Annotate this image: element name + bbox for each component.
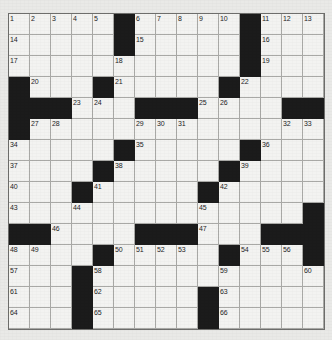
grid-cell[interactable]: 47 bbox=[198, 224, 219, 245]
grid-cell[interactable] bbox=[261, 266, 282, 287]
grid-cell[interactable] bbox=[51, 77, 72, 98]
grid-cell[interactable] bbox=[282, 308, 303, 329]
grid-cell[interactable] bbox=[198, 245, 219, 266]
grid-cell[interactable] bbox=[72, 35, 93, 56]
grid-cell[interactable] bbox=[51, 245, 72, 266]
grid-cell[interactable] bbox=[156, 182, 177, 203]
grid-cell[interactable] bbox=[177, 35, 198, 56]
grid-cell[interactable] bbox=[177, 56, 198, 77]
grid-cell[interactable]: 26 bbox=[219, 98, 240, 119]
grid-cell[interactable] bbox=[30, 287, 51, 308]
grid-cell[interactable]: 20 bbox=[30, 77, 51, 98]
grid-cell[interactable] bbox=[219, 203, 240, 224]
grid-cell[interactable] bbox=[156, 56, 177, 77]
grid-cell[interactable] bbox=[282, 56, 303, 77]
grid-cell[interactable] bbox=[240, 182, 261, 203]
grid-cell[interactable]: 10 bbox=[219, 14, 240, 35]
grid-cell[interactable] bbox=[135, 56, 156, 77]
grid-cell[interactable]: 19 bbox=[261, 56, 282, 77]
grid-cell[interactable] bbox=[30, 140, 51, 161]
grid-cell[interactable]: 32 bbox=[282, 119, 303, 140]
grid-cell[interactable]: 14 bbox=[9, 35, 30, 56]
grid-cell[interactable] bbox=[198, 77, 219, 98]
grid-cell[interactable]: 64 bbox=[9, 308, 30, 329]
grid-cell[interactable] bbox=[177, 203, 198, 224]
grid-cell[interactable] bbox=[51, 140, 72, 161]
grid-cell[interactable] bbox=[177, 266, 198, 287]
grid-cell[interactable] bbox=[261, 77, 282, 98]
grid-cell[interactable] bbox=[177, 161, 198, 182]
grid-cell[interactable] bbox=[114, 224, 135, 245]
grid-cell[interactable]: 23 bbox=[72, 98, 93, 119]
grid-cell[interactable] bbox=[240, 287, 261, 308]
grid-cell[interactable]: 13 bbox=[303, 14, 324, 35]
grid-cell[interactable]: 60 bbox=[303, 266, 324, 287]
grid-cell[interactable]: 49 bbox=[30, 245, 51, 266]
grid-cell[interactable] bbox=[303, 56, 324, 77]
grid-cell[interactable]: 52 bbox=[156, 245, 177, 266]
grid-cell[interactable] bbox=[240, 203, 261, 224]
grid-cell[interactable] bbox=[282, 35, 303, 56]
grid-cell[interactable] bbox=[51, 56, 72, 77]
grid-cell[interactable]: 56 bbox=[282, 245, 303, 266]
grid-cell[interactable] bbox=[198, 56, 219, 77]
grid-cell[interactable] bbox=[30, 182, 51, 203]
grid-cell[interactable]: 35 bbox=[135, 140, 156, 161]
grid-cell[interactable] bbox=[303, 35, 324, 56]
grid-cell[interactable] bbox=[51, 266, 72, 287]
grid-cell[interactable]: 24 bbox=[93, 98, 114, 119]
grid-cell[interactable] bbox=[72, 161, 93, 182]
grid-cell[interactable] bbox=[156, 287, 177, 308]
grid-cell[interactable]: 46 bbox=[51, 224, 72, 245]
grid-cell[interactable]: 16 bbox=[261, 35, 282, 56]
grid-cell[interactable] bbox=[72, 224, 93, 245]
grid-cell[interactable]: 2 bbox=[30, 14, 51, 35]
grid-cell[interactable] bbox=[198, 35, 219, 56]
grid-cell[interactable]: 42 bbox=[219, 182, 240, 203]
grid-cell[interactable] bbox=[156, 35, 177, 56]
grid-cell[interactable] bbox=[198, 119, 219, 140]
grid-cell[interactable] bbox=[135, 203, 156, 224]
grid-cell[interactable] bbox=[72, 140, 93, 161]
grid-cell[interactable] bbox=[156, 140, 177, 161]
grid-cell[interactable]: 33 bbox=[303, 119, 324, 140]
grid-cell[interactable]: 8 bbox=[177, 14, 198, 35]
grid-cell[interactable]: 40 bbox=[9, 182, 30, 203]
grid-cell[interactable] bbox=[114, 182, 135, 203]
grid-cell[interactable]: 27 bbox=[30, 119, 51, 140]
grid-cell[interactable]: 4 bbox=[72, 14, 93, 35]
grid-cell[interactable] bbox=[261, 203, 282, 224]
grid-cell[interactable]: 6 bbox=[135, 14, 156, 35]
grid-cell[interactable] bbox=[177, 140, 198, 161]
grid-cell[interactable] bbox=[30, 308, 51, 329]
grid-cell[interactable]: 18 bbox=[114, 56, 135, 77]
grid-cell[interactable] bbox=[114, 308, 135, 329]
grid-cell[interactable] bbox=[282, 287, 303, 308]
grid-cell[interactable] bbox=[135, 161, 156, 182]
grid-cell[interactable] bbox=[156, 77, 177, 98]
grid-cell[interactable] bbox=[30, 203, 51, 224]
grid-cell[interactable] bbox=[240, 119, 261, 140]
grid-cell[interactable] bbox=[72, 119, 93, 140]
grid-cell[interactable]: 22 bbox=[240, 77, 261, 98]
grid-cell[interactable]: 36 bbox=[261, 140, 282, 161]
grid-cell[interactable]: 12 bbox=[282, 14, 303, 35]
grid-cell[interactable] bbox=[72, 56, 93, 77]
crossword-grid[interactable]: 1234567891011121314151617181920212223242… bbox=[8, 13, 325, 330]
grid-cell[interactable] bbox=[303, 182, 324, 203]
grid-cell[interactable] bbox=[30, 266, 51, 287]
grid-cell[interactable] bbox=[303, 77, 324, 98]
grid-cell[interactable] bbox=[51, 35, 72, 56]
grid-cell[interactable] bbox=[93, 35, 114, 56]
grid-cell[interactable]: 5 bbox=[93, 14, 114, 35]
grid-cell[interactable] bbox=[219, 140, 240, 161]
grid-cell[interactable] bbox=[303, 161, 324, 182]
grid-cell[interactable] bbox=[156, 308, 177, 329]
grid-cell[interactable] bbox=[135, 77, 156, 98]
grid-cell[interactable] bbox=[135, 182, 156, 203]
grid-cell[interactable] bbox=[240, 98, 261, 119]
grid-cell[interactable] bbox=[282, 140, 303, 161]
grid-cell[interactable] bbox=[240, 308, 261, 329]
grid-cell[interactable] bbox=[114, 119, 135, 140]
grid-cell[interactable] bbox=[219, 224, 240, 245]
